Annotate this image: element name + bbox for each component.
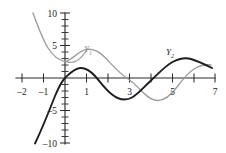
y-tick-label--5: –5 (47, 106, 58, 116)
x-tick-label-1: 1 (84, 87, 89, 97)
plot-svg: –2 –1 1 3 5 7 10 5 –5 –10 Y1 Y2 (0, 0, 226, 153)
x-tick-label-5: 5 (170, 87, 175, 97)
x-tick-label--2: –2 (16, 87, 27, 97)
series-label-y1-subscript: 1 (89, 50, 92, 56)
x-tick-label--1: –1 (38, 87, 49, 97)
y-tick-label-5: 5 (52, 41, 57, 51)
y-tick-label--10: –10 (42, 139, 58, 149)
chart-figure: –2 –1 1 3 5 7 10 5 –5 –10 Y1 Y2 (0, 0, 226, 153)
series-label-y2-subscript: 2 (171, 53, 174, 59)
series-label-y1: Y1 (84, 44, 92, 56)
series-label-y2: Y2 (166, 47, 174, 59)
x-tick-label-3: 3 (127, 87, 132, 97)
x-tick-label-7: 7 (213, 87, 218, 97)
y-tick-label-10: 10 (48, 9, 58, 19)
